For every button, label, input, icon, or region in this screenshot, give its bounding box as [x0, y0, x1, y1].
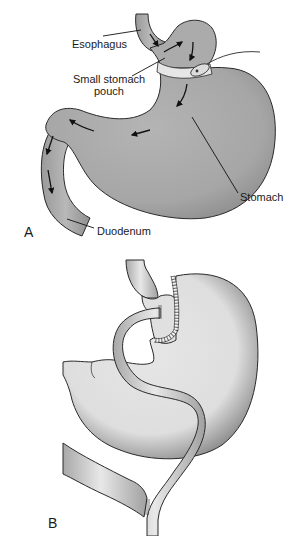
panel-letter-b: B — [48, 515, 57, 531]
label-small-stomach-pouch-line2: pouch — [94, 85, 124, 97]
figure-illustration — [0, 0, 302, 536]
gastric-surgery-figure: Esophagus Small stomach pouch Stomach Du… — [0, 0, 302, 536]
esophagus-b — [126, 260, 158, 298]
label-esophagus: Esophagus — [72, 38, 127, 50]
panel-letter-a: A — [24, 224, 33, 240]
anastomosis-stitch-icon — [158, 306, 162, 318]
label-stomach: Stomach — [240, 191, 283, 203]
band-tubing-a — [207, 52, 260, 64]
label-small-stomach-pouch-line1: Small stomach — [73, 73, 145, 85]
panel-b-drawing — [63, 260, 258, 536]
label-duodenum: Duodenum — [97, 225, 151, 237]
